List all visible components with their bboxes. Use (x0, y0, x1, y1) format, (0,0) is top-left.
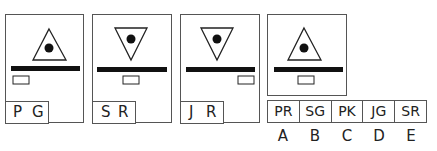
panel-4-question (267, 14, 347, 96)
thick-bar (97, 67, 167, 72)
small-rectangle (238, 76, 254, 84)
panel-2-label-box: S R (92, 101, 136, 124)
dot-icon (213, 35, 222, 44)
dot-icon (300, 44, 309, 53)
panel-3: J R (180, 14, 260, 123)
panel-4-figure (268, 15, 348, 97)
option-e-letter: E (395, 127, 427, 145)
dot-icon (45, 44, 54, 53)
small-rectangle (298, 76, 314, 84)
thick-bar (186, 67, 255, 72)
panel-3-label-2: R (206, 102, 216, 122)
panel-1-label-1: P (13, 102, 22, 122)
option-c-code[interactable]: PK (332, 101, 364, 122)
small-rectangle (123, 76, 139, 84)
option-letters: A B C D E (267, 127, 427, 145)
option-e-code[interactable]: SR (395, 101, 426, 122)
small-rectangle (13, 76, 29, 84)
option-d-code[interactable]: JG (363, 101, 395, 122)
panel-1-label-2: G (32, 102, 44, 122)
panel-1: P G (5, 14, 84, 123)
option-c-letter: C (331, 127, 363, 145)
triangle-down-icon (115, 28, 147, 60)
triangle-down-icon (201, 28, 233, 60)
panel-2-label-2: R (118, 102, 128, 122)
option-a-letter: A (267, 127, 299, 145)
panel-3-label-box: J R (180, 101, 224, 124)
option-b-letter: B (299, 127, 331, 145)
option-b-code[interactable]: SG (300, 101, 332, 122)
thick-bar (11, 66, 80, 71)
option-a-code[interactable]: PR (268, 101, 300, 122)
panel-1-label-box: P G (5, 101, 49, 124)
panel-2-label-1: S (101, 102, 111, 122)
panel-2: S R (92, 14, 172, 123)
dot-icon (127, 35, 136, 44)
thick-bar (274, 67, 343, 72)
answer-options-row: PR SG PK JG SR (267, 100, 427, 123)
option-d-letter: D (363, 127, 395, 145)
panel-3-label-1: J (189, 102, 193, 122)
